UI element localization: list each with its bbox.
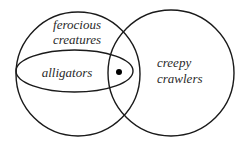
creepy-label-line2: crawlers bbox=[157, 71, 203, 86]
ferocious-label-line1: ferocious bbox=[53, 17, 101, 32]
intersection-dot bbox=[116, 69, 122, 75]
creepy-label-line1: creepy bbox=[157, 55, 191, 70]
venn-diagram: ferocious creatures alligators creepy cr… bbox=[0, 0, 248, 142]
ferocious-label-line2: creatures bbox=[53, 32, 101, 47]
alligators-label: alligators bbox=[42, 65, 93, 80]
